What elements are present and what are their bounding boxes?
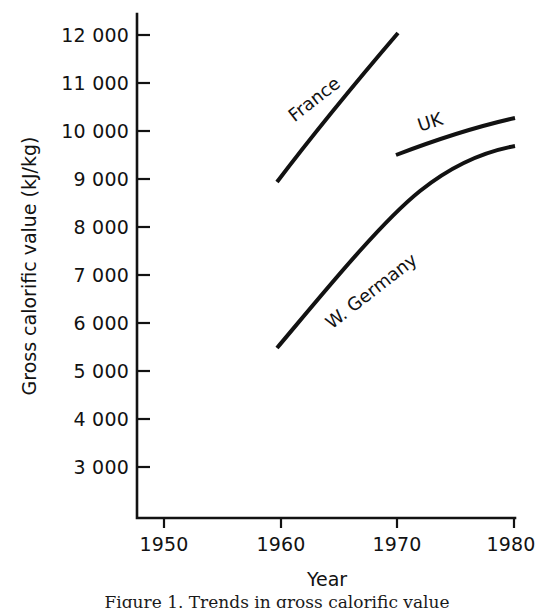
y-axis-label-12000: 12 000	[61, 24, 129, 46]
series-line-w-germany	[277, 146, 515, 348]
x-tick-label-group: 1950 1960 1970 1980	[139, 533, 535, 555]
x-tick-marks	[164, 518, 514, 528]
figure-root: 12 000 11 000 10 000 9 000 8 000 7 000 6…	[0, 0, 554, 608]
series-label-w-germany: W. Germany	[321, 249, 421, 333]
figure-caption-clip: Figure 1. Trends in gross calorific valu…	[0, 592, 554, 608]
y-axis-label-5000: 5 000	[74, 360, 129, 382]
x-axis-label-1950: 1950	[139, 533, 188, 555]
y-axis-label-10000: 10 000	[61, 120, 129, 142]
y-tick-marks	[137, 35, 150, 467]
series-label-group: France UK W. Germany	[284, 72, 446, 333]
series-label-uk: UK	[415, 108, 446, 136]
y-tick-label-group: 12 000 11 000 10 000 9 000 8 000 7 000 6…	[61, 24, 129, 478]
line-chart: 12 000 11 000 10 000 9 000 8 000 7 000 6…	[0, 0, 554, 608]
series-group	[277, 33, 515, 348]
x-axis-label-1970: 1970	[372, 533, 421, 555]
figure-caption: Figure 1. Trends in gross calorific valu…	[0, 592, 554, 608]
y-axis-label-7000: 7 000	[74, 264, 129, 286]
y-axis-label-11000: 11 000	[61, 72, 129, 94]
y-axis-label-4000: 4 000	[74, 408, 129, 430]
y-axis-title: Gross calorific value (kJ/kg)	[18, 137, 40, 396]
y-axis-label-9000: 9 000	[74, 168, 129, 190]
x-axis-title: Year	[306, 568, 347, 590]
series-label-france: France	[284, 72, 344, 125]
x-axis-label-1960: 1960	[256, 533, 305, 555]
x-axis-label-1980: 1980	[486, 533, 535, 555]
y-axis-label-3000: 3 000	[74, 456, 129, 478]
y-axis-label-6000: 6 000	[74, 312, 129, 334]
y-axis-label-8000: 8 000	[74, 216, 129, 238]
